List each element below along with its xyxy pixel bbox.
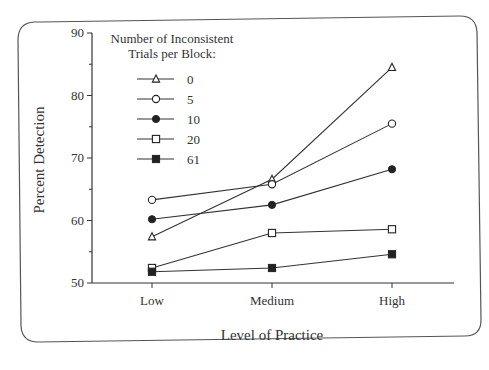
figure-frame (40, 17, 481, 159)
legend-item: 0 (137, 72, 194, 87)
legend-item: 20 (137, 132, 200, 147)
chart-frame-border (36, 16, 484, 152)
filled-square-marker-icon (268, 264, 275, 271)
legend-label: 10 (187, 112, 200, 127)
plot-area (148, 63, 395, 275)
filled-circle-marker-icon (268, 201, 275, 208)
y-tick-label: 50 (71, 275, 84, 290)
rounded-border (40, 16, 481, 152)
series-markers-61 (148, 251, 395, 276)
filled-square-marker-icon (388, 251, 395, 258)
filled-circle-marker-icon (388, 166, 395, 173)
legend-label: 5 (187, 92, 194, 107)
open-square-marker-icon (268, 229, 275, 236)
open-square-marker-icon (152, 135, 159, 142)
x-tick-label: Medium (250, 293, 294, 308)
filled-circle-marker-icon (152, 115, 159, 122)
triangle-marker-icon (148, 233, 155, 240)
outer-frame (40, 16, 480, 152)
series-markers-0 (148, 63, 395, 240)
open-circle-marker-icon (268, 181, 275, 188)
y-tick-label: 70 (71, 150, 84, 165)
x-axis-title: Level of Practice (221, 327, 324, 343)
legend-item: 5 (137, 92, 194, 107)
filled-square-marker-icon (152, 155, 159, 162)
chart-border (39, 16, 482, 155)
open-circle-marker-icon (152, 95, 159, 102)
legend-title: Trials per Block: (128, 46, 216, 61)
rounded-rect-border (40, 16, 481, 151)
chart-frame (40, 16, 484, 153)
plot-frame (40, 16, 480, 152)
legend-item: 10 (137, 112, 200, 127)
y-tick-label: 90 (71, 25, 84, 40)
y-tick-label: 60 (71, 213, 84, 228)
filled-square-marker-icon (148, 268, 155, 275)
y-tick-label: 80 (71, 88, 84, 103)
legend-label: 0 (187, 72, 194, 87)
legend: Number of InconsistentTrials per Block:0… (111, 31, 234, 167)
legend-title: Number of Inconsistent (111, 31, 234, 46)
frame (40, 16, 482, 339)
axes: 5060708090LowMediumHighLevel of Practice… (31, 25, 454, 343)
open-circle-marker-icon (148, 196, 155, 203)
x-tick-label: Low (140, 293, 164, 308)
filled-circle-marker-icon (148, 216, 155, 223)
rounded-frame (38, 16, 481, 155)
x-tick-label: High (379, 293, 406, 308)
line-chart: 5060708090LowMediumHighLevel of Practice… (0, 0, 489, 370)
legend-label: 20 (187, 132, 200, 147)
y-axis-title: Percent Detection (31, 106, 47, 214)
legend-label: 61 (187, 152, 200, 167)
figure-border (40, 16, 481, 150)
series-markers-5 (148, 120, 395, 203)
open-square-marker-icon (388, 226, 395, 233)
legend-item: 61 (137, 152, 200, 167)
chart-frame (40, 17, 482, 151)
triangle-marker-icon (388, 63, 395, 70)
open-circle-marker-icon (388, 120, 395, 127)
